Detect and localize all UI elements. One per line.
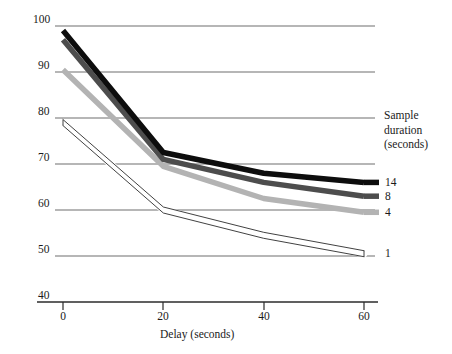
legend-title: Sample duration (seconds) [384, 108, 428, 152]
legend-key-8: 8 [385, 190, 391, 202]
legend-title-line-1: Sample [384, 108, 428, 123]
legend-key-1: 1 [385, 247, 391, 259]
x-tick-label-60: 60 [349, 310, 379, 322]
legend-title-line-2: duration [384, 123, 428, 138]
x-tick-label-20: 20 [148, 310, 178, 322]
x-tick-label-0: 0 [48, 310, 78, 322]
legend-key-4: 4 [385, 206, 391, 218]
legend-title-line-3: (seconds) [384, 137, 428, 152]
x-axis-title: Delay (seconds) [160, 328, 234, 341]
legend-key-14: 14 [385, 176, 397, 188]
legend-line-stubs [364, 182, 379, 212]
x-tick-label-40: 40 [249, 310, 279, 322]
chart-container: Percentage correct 100 90 80 70 60 50 40 [0, 0, 452, 354]
x-axis [37, 302, 378, 310]
